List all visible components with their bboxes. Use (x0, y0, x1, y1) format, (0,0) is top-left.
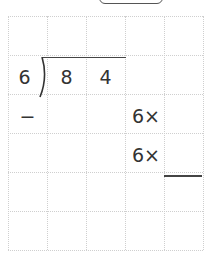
grid-line (8, 55, 203, 56)
grid-line (8, 16, 203, 17)
multiply-label: 6× (125, 136, 167, 175)
multiply-label: 6× (125, 97, 167, 136)
division-bracket (37, 57, 47, 98)
minus-sign: − (8, 97, 47, 136)
dividend-digit: 8 (47, 58, 86, 97)
division-bar (42, 57, 126, 58)
answer-box[interactable] (99, 0, 163, 4)
grid-line (8, 211, 203, 212)
grid-line (8, 172, 203, 173)
grid-line (8, 250, 203, 251)
dividend-digit: 4 (86, 58, 125, 97)
answer-underline (164, 175, 202, 177)
grid-line (203, 16, 204, 250)
